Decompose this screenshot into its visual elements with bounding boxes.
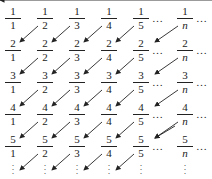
diagonal-arrow [155,126,175,138]
diagonal-arrow [84,90,102,106]
diagonal-arrow [20,122,38,138]
diagonal-arrow [20,90,38,106]
diagonal-arrow [116,26,134,42]
diagonal-arrow [20,58,38,74]
diagonal-arrow [52,90,70,106]
diagonal-arrow [155,90,178,106]
diagonal-arrow [116,154,134,170]
diagonal-arrow [84,26,102,42]
diagonal-arrow [52,122,70,138]
diagonal-arrow [116,58,134,74]
diagonal-arrow [52,58,70,74]
diagonal-arrow [116,90,134,106]
diagonal-arrow [20,154,38,170]
diagonal-arrow [155,58,178,74]
diagonal-arrow [52,154,70,170]
diagonal-arrows [0,0,212,179]
diagonal-arrow [20,26,38,42]
diagonal-arrow [116,122,134,138]
diagonal-arrow [84,58,102,74]
diagonal-arrow [52,26,70,42]
diagonal-arrow [155,26,178,42]
diagonal-arrow [84,154,102,170]
diagonal-arrow [84,122,102,138]
